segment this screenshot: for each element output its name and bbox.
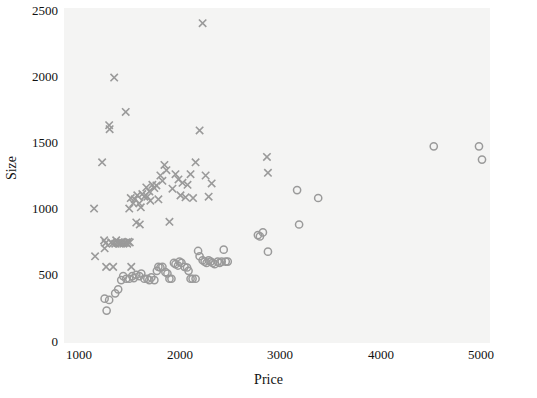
xtick-5000: 5000 xyxy=(446,348,516,361)
data-point-cross xyxy=(122,108,129,115)
y-axis-label: Size xyxy=(4,138,20,198)
ytick-2000: 2000 xyxy=(8,70,58,83)
data-point-cross xyxy=(91,253,98,260)
data-point-circle xyxy=(264,248,271,255)
ytick-label: 1000 xyxy=(12,202,58,215)
data-point-cross xyxy=(202,172,209,179)
data-point-circle xyxy=(315,194,322,201)
xtick-1000: 1000 xyxy=(44,348,114,361)
data-point-cross xyxy=(126,205,133,212)
data-point-cross xyxy=(110,74,117,81)
data-point-circle xyxy=(106,296,113,303)
data-point-circle xyxy=(293,186,300,193)
data-point-cross xyxy=(196,127,203,134)
data-point-cross xyxy=(189,194,196,201)
ytick-label: 500 xyxy=(12,268,58,281)
ytick-0: 0 xyxy=(8,335,58,348)
data-point-cross xyxy=(109,263,116,270)
data-markers xyxy=(90,20,485,315)
ytick-label: 2000 xyxy=(12,70,58,83)
data-point-circle xyxy=(478,156,485,163)
ytick-label: 2500 xyxy=(12,4,58,17)
data-point-cross xyxy=(90,205,97,212)
data-point-cross xyxy=(205,193,212,200)
plot-markers-layer xyxy=(0,0,537,398)
scatter-plot-figure: 2500 2000 1500 1000 500 0 1000 2000 3000… xyxy=(0,0,537,398)
ytick-1000: 1000 xyxy=(8,202,58,215)
xtick-3000: 3000 xyxy=(245,348,315,361)
data-point-cross xyxy=(102,263,109,270)
ytick-2500: 2500 xyxy=(8,4,58,17)
data-point-cross xyxy=(199,20,206,27)
data-point-cross xyxy=(166,218,173,225)
ytick-label: 0 xyxy=(12,335,58,348)
xtick-2000: 2000 xyxy=(145,348,215,361)
data-point-circle xyxy=(103,307,110,314)
data-point-cross xyxy=(263,153,270,160)
data-point-cross xyxy=(128,263,135,270)
ytick-500: 500 xyxy=(8,268,58,281)
xtick-4000: 4000 xyxy=(346,348,416,361)
data-point-cross xyxy=(147,197,154,204)
x-axis-label: Price xyxy=(0,372,537,388)
data-point-cross xyxy=(155,196,162,203)
data-point-cross xyxy=(187,170,194,177)
data-point-cross xyxy=(264,169,271,176)
data-point-circle xyxy=(430,143,437,150)
data-point-circle xyxy=(296,221,303,228)
data-point-circle xyxy=(220,246,227,253)
data-point-circle xyxy=(475,143,482,150)
data-point-cross xyxy=(192,159,199,166)
data-point-cross xyxy=(208,180,215,187)
data-point-cross xyxy=(169,185,176,192)
data-point-cross xyxy=(98,159,105,166)
